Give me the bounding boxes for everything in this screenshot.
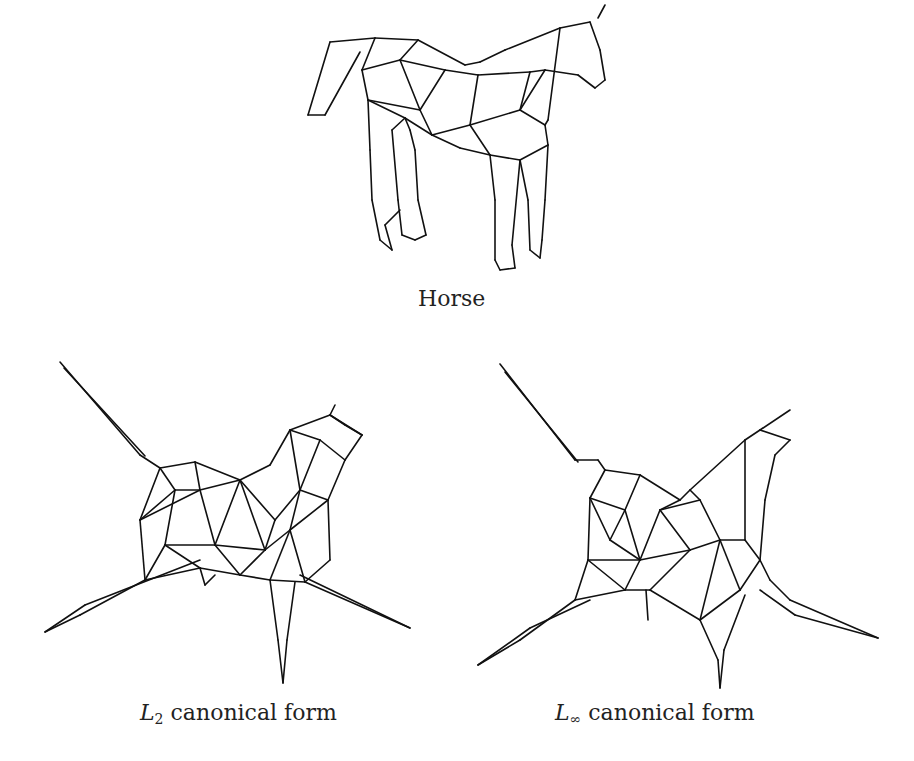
mesh-edge <box>588 560 625 590</box>
mesh-edge <box>575 590 625 600</box>
mesh-edge <box>588 498 590 560</box>
mesh-edge <box>690 540 720 550</box>
mesh-edge <box>598 460 605 470</box>
linf-canonical-figure <box>0 0 914 700</box>
mesh-edge <box>680 490 690 500</box>
mesh-edge <box>700 500 720 540</box>
mesh-edge <box>690 440 745 490</box>
linf-caption: L∞ canonical form <box>555 700 755 727</box>
mesh-edge <box>770 580 790 600</box>
mesh-edge <box>760 590 795 615</box>
mesh-edge <box>720 650 724 688</box>
mesh-edge <box>700 620 718 660</box>
mesh-edge <box>720 540 740 590</box>
mesh-edge <box>745 540 760 560</box>
mesh-edge <box>478 628 530 665</box>
mesh-edge <box>640 510 660 560</box>
mesh-edge <box>650 590 700 620</box>
mesh-edge <box>790 600 878 638</box>
mesh-edge <box>660 500 700 510</box>
mesh-edge <box>625 510 640 560</box>
mesh-edge <box>625 475 640 510</box>
mesh-edge <box>760 560 770 580</box>
mesh-edge <box>690 490 700 500</box>
mesh-edge <box>505 372 578 462</box>
mesh-edge <box>625 560 640 590</box>
linf-canonical-wireframe <box>0 0 914 700</box>
mesh-edge <box>575 560 588 600</box>
mesh-edge <box>646 590 648 620</box>
mesh-edge <box>760 430 790 440</box>
mesh-edge <box>740 560 760 590</box>
mesh-edge <box>590 470 605 498</box>
mesh-edge <box>775 440 790 455</box>
mesh-edge <box>530 600 590 628</box>
mesh-edge <box>640 475 680 500</box>
mesh-edge <box>605 470 640 475</box>
mesh-edge <box>745 430 760 440</box>
mesh-edge <box>660 510 690 550</box>
mesh-edge <box>760 410 790 430</box>
mesh-edge <box>760 500 765 560</box>
mesh-edge <box>765 455 775 500</box>
mesh-edge <box>724 595 745 650</box>
l2-caption: L2 canonical form <box>140 700 337 727</box>
mesh-edge <box>795 615 878 638</box>
mesh-edge <box>610 510 625 540</box>
